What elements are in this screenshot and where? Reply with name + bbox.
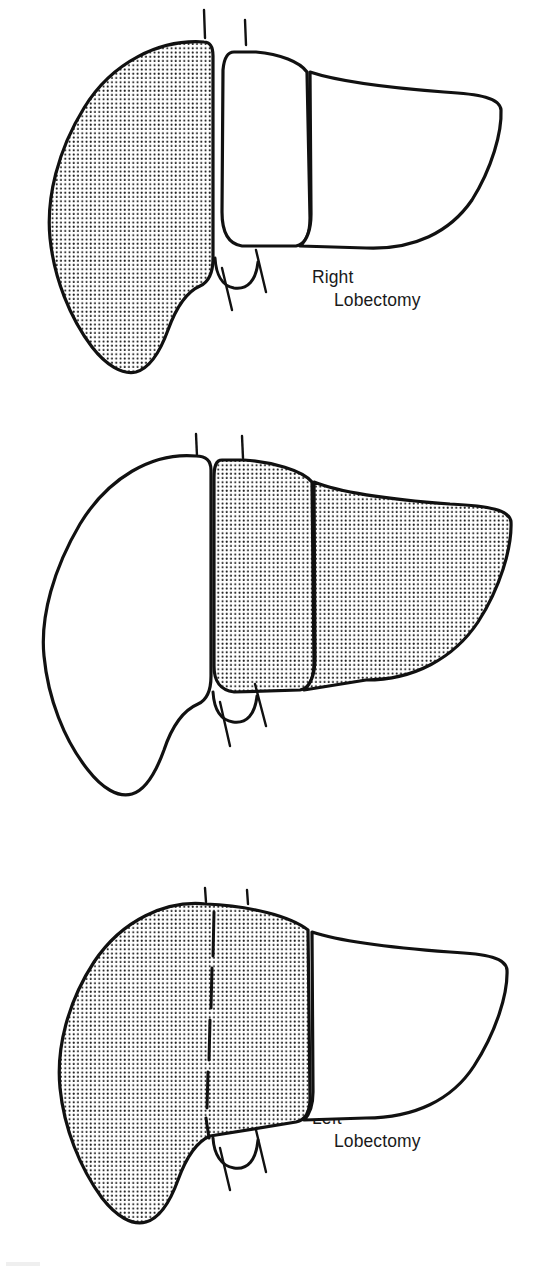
left-lateral-segment-outline xyxy=(304,932,507,1120)
right-lobe-and-medial-segment-shaded xyxy=(59,903,310,1222)
caption-line-2: Lobectomy xyxy=(312,289,421,312)
gallbladder-icon xyxy=(213,692,257,722)
caption-right-lobectomy: RightLobectomy xyxy=(312,266,421,312)
scan-artifact xyxy=(6,1262,40,1266)
right-lobectomy-diagram xyxy=(0,0,539,400)
trisegmentectomy-diagram xyxy=(0,850,539,1274)
panel-left-lobectomy: LeftLobectomy xyxy=(0,400,539,850)
left-lateral-segment-shaded xyxy=(304,482,511,690)
left-lobectomy-diagram xyxy=(0,400,539,850)
left-medial-segment-shaded xyxy=(214,460,314,692)
panel-right-lobectomy: RightLobectomy xyxy=(0,0,539,400)
vessel-stub-superior-left-icon xyxy=(196,434,197,456)
vessel-stub-superior-left-icon xyxy=(204,10,205,38)
gallbladder-icon xyxy=(215,258,258,288)
liver-resection-figure: RightLobectomy Le xyxy=(0,0,539,1274)
gallbladder-icon xyxy=(213,1138,258,1168)
right-lobe-outline xyxy=(43,456,211,795)
vessel-stub-superior-right-icon xyxy=(242,436,243,458)
left-lateral-segment-outline xyxy=(300,72,501,248)
caption-line-1: Right xyxy=(312,267,353,287)
vessel-stub-superior-right-icon xyxy=(247,890,248,904)
vessel-stub-superior-left-icon xyxy=(205,888,206,902)
left-medial-segment-outline xyxy=(222,52,310,246)
vessel-stub-superior-right-icon xyxy=(245,20,246,45)
panel-trisegmentectomy: Trisegmentectomy xyxy=(0,850,539,1274)
right-lobe-shaded xyxy=(49,42,213,373)
